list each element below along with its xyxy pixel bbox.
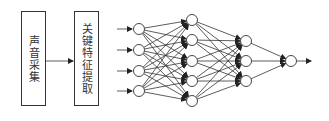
hidden2-node xyxy=(241,76,252,87)
neural-network-diagram xyxy=(0,0,329,121)
input-node xyxy=(134,66,145,77)
connection-edge xyxy=(197,22,240,39)
input-node xyxy=(134,24,145,35)
connection-edge xyxy=(251,63,285,78)
connection-edge xyxy=(144,92,186,100)
hidden1-node xyxy=(187,56,198,67)
output-node xyxy=(286,56,297,67)
connection-edge xyxy=(196,43,241,77)
input-node xyxy=(134,45,145,56)
hidden1-node xyxy=(187,96,198,107)
hidden1-node xyxy=(187,35,198,46)
connection-edge xyxy=(251,43,285,58)
connection-edge xyxy=(196,45,242,96)
hidden1-node xyxy=(187,76,198,87)
connection-edge xyxy=(197,83,240,99)
connection-edge xyxy=(143,44,188,87)
hidden2-node xyxy=(241,56,252,67)
connection-edge xyxy=(143,24,188,67)
connection-edge xyxy=(197,40,240,41)
connection-edge xyxy=(143,33,188,77)
input-node xyxy=(134,86,145,97)
hidden1-node xyxy=(187,15,198,26)
hidden2-node xyxy=(241,36,252,47)
